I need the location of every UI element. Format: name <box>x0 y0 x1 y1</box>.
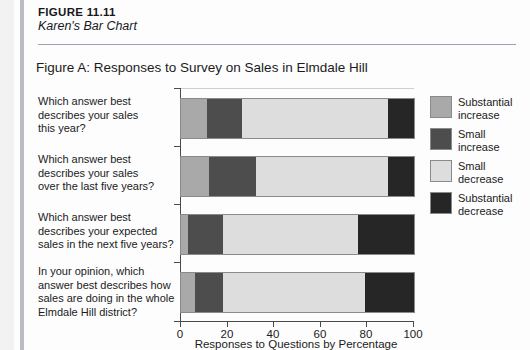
bar-segment-small-increase <box>207 99 242 138</box>
bar-segment-substantial-increase <box>181 215 188 254</box>
legend-label-line-2: decrease <box>458 205 512 218</box>
legend-swatch-substantial-decrease <box>430 192 452 214</box>
question-4-line-3: sales are doing in the whole <box>38 292 178 306</box>
chart-legend: Substantial increase Small increase Smal… <box>430 96 530 224</box>
legend-swatch-small-increase <box>430 128 452 150</box>
question-4-line-1: In your opinion, which <box>38 265 178 279</box>
bar-segment-substantial-increase <box>181 273 195 312</box>
bar-segment-small-decrease <box>242 99 389 138</box>
question-2-line-1: Which answer best <box>38 153 178 167</box>
x-axis-tick <box>227 322 228 327</box>
bar-segment-substantial-increase <box>181 157 209 196</box>
question-label-1: Which answer best describes your sales t… <box>38 95 178 136</box>
question-1-line-3: this year? <box>38 122 178 136</box>
legend-label-line-2: increase <box>458 141 500 154</box>
bar-segment-small-decrease <box>223 273 365 312</box>
x-axis-tick <box>320 322 321 327</box>
question-label-4: In your opinion, which answer best descr… <box>38 265 178 319</box>
x-axis-tick <box>366 322 367 327</box>
legend-swatch-small-decrease <box>430 160 452 182</box>
header-divider <box>38 44 516 45</box>
legend-item-small-decrease[interactable]: Small decrease <box>430 160 530 185</box>
bar-segment-substantial-decrease <box>358 215 414 254</box>
figure-title: Karen's Bar Chart <box>38 19 438 33</box>
legend-item-substantial-increase[interactable]: Substantial increase <box>430 96 530 121</box>
y-axis-tick <box>174 88 180 89</box>
page-vertical-rule <box>20 0 24 350</box>
legend-label-small-decrease: Small decrease <box>458 160 503 185</box>
question-label-2: Which answer best describes your sales o… <box>38 153 178 194</box>
bar-segment-substantial-increase <box>181 99 207 138</box>
plot-top-border <box>180 88 414 89</box>
figure-page: FIGURE 11.11 Karen's Bar Chart Figure A:… <box>0 0 530 350</box>
x-axis-line <box>180 321 414 322</box>
figure-header: FIGURE 11.11 Karen's Bar Chart <box>38 6 438 33</box>
bar-segment-small-decrease <box>223 215 358 254</box>
x-axis-tick <box>180 322 181 327</box>
bar-segment-small-increase <box>209 157 256 196</box>
bar-row-1[interactable] <box>180 98 415 139</box>
bar-segment-substantial-decrease <box>388 157 414 196</box>
legend-label-line-1: Small <box>458 160 503 173</box>
bar-segment-substantial-decrease <box>388 99 414 138</box>
legend-swatch-substantial-increase <box>430 96 452 118</box>
bar-row-2[interactable] <box>180 156 415 197</box>
x-axis-label-0: 0 <box>177 328 183 340</box>
question-3-line-2: describes your expected <box>38 225 178 239</box>
bar-row-3[interactable] <box>180 214 415 255</box>
question-3-line-1: Which answer best <box>38 211 178 225</box>
question-3-line-3: sales in the next five years? <box>38 238 178 252</box>
plot-area <box>180 90 413 320</box>
legend-item-substantial-decrease[interactable]: Substantial decrease <box>430 192 530 217</box>
chart-title: Figure A: Responses to Survey on Sales i… <box>36 60 368 75</box>
question-4-line-4: Elmdale Hill district? <box>38 306 178 320</box>
question-1-line-2: describes your sales <box>38 109 178 123</box>
bar-segment-substantial-decrease <box>365 273 414 312</box>
x-axis-tick <box>273 322 274 327</box>
legend-label-line-1: Substantial <box>458 96 512 109</box>
x-axis-tick <box>413 322 414 327</box>
x-axis-title: Responses to Questions by Percentage <box>195 338 398 350</box>
x-axis-label-100: 100 <box>403 328 422 340</box>
question-2-line-2: describes your sales <box>38 167 178 181</box>
bar-segment-small-increase <box>188 215 223 254</box>
question-2-line-3: over the last five years? <box>38 180 178 194</box>
question-4-line-2: answer best describes how <box>38 279 178 293</box>
page-left-edge <box>0 0 14 350</box>
question-label-3: Which answer best describes your expecte… <box>38 211 178 252</box>
legend-label-line-1: Substantial <box>458 192 512 205</box>
legend-label-line-1: Small <box>458 128 500 141</box>
legend-label-substantial-increase: Substantial increase <box>458 96 512 121</box>
legend-label-line-2: decrease <box>458 173 503 186</box>
legend-label-substantial-decrease: Substantial decrease <box>458 192 512 217</box>
bar-row-4[interactable] <box>180 272 415 313</box>
legend-label-line-2: increase <box>458 109 512 122</box>
legend-label-small-increase: Small increase <box>458 128 500 153</box>
figure-number: FIGURE 11.11 <box>38 6 438 18</box>
bar-segment-small-increase <box>195 273 223 312</box>
question-1-line-1: Which answer best <box>38 95 178 109</box>
bar-segment-small-decrease <box>256 157 389 196</box>
legend-item-small-increase[interactable]: Small increase <box>430 128 530 153</box>
